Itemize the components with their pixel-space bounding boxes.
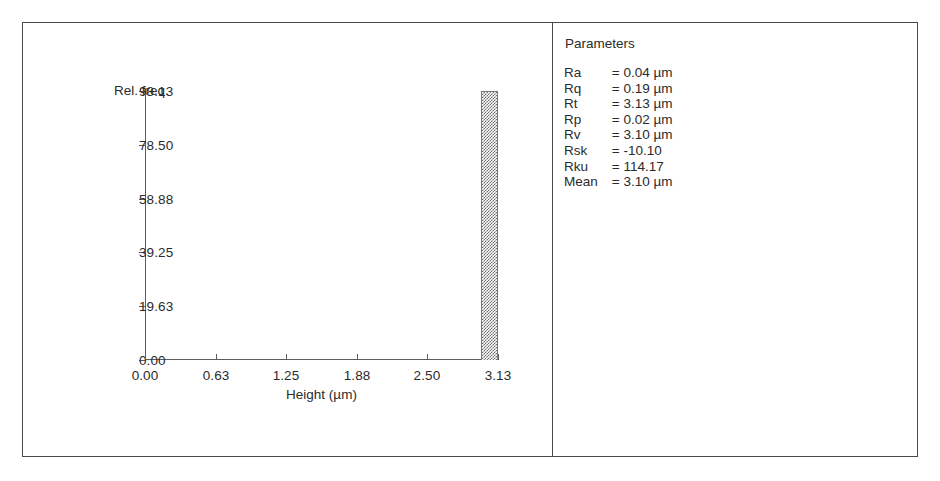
parameters-panel: Parameters Ra= 0.04 µmRq= 0.19 µmRt= 3.1… bbox=[553, 23, 918, 456]
parameter-value: = 3.10 µm bbox=[612, 127, 673, 143]
screenshot-root: Rel. freq. 0.0019.6339.2558.8878.5098.13… bbox=[0, 0, 940, 481]
parameter-row: Rv= 3.10 µm bbox=[564, 127, 672, 143]
x-tick-label: 1.25 bbox=[273, 368, 300, 383]
parameter-row: Rsk= -10.10 bbox=[564, 143, 672, 159]
parameter-unit: µm bbox=[653, 174, 672, 189]
x-tick-label: 2.50 bbox=[414, 368, 441, 383]
parameter-unit: µm bbox=[653, 96, 672, 111]
parameter-name: Rq bbox=[564, 81, 612, 97]
parameter-value: = 0.19 µm bbox=[612, 81, 673, 97]
histogram-bars bbox=[145, 91, 498, 360]
parameter-name: Rp bbox=[564, 112, 612, 128]
x-tick-label: 0.63 bbox=[203, 368, 230, 383]
histogram-chart-panel: Rel. freq. 0.0019.6339.2558.8878.5098.13… bbox=[23, 23, 552, 456]
parameter-row: Rt= 3.13 µm bbox=[564, 96, 672, 112]
parameter-value: = 0.04 µm bbox=[612, 65, 673, 81]
parameter-value: = -10.10 bbox=[612, 143, 673, 159]
parameter-name: Rt bbox=[564, 96, 612, 112]
x-tick-label: 0.00 bbox=[132, 368, 159, 383]
x-tick-label: 1.88 bbox=[344, 368, 371, 383]
x-tick-label: 3.13 bbox=[485, 368, 512, 383]
parameter-row: Mean= 3.10 µm bbox=[564, 174, 672, 190]
parameter-row: Rp= 0.02 µm bbox=[564, 112, 672, 128]
parameter-name: Rv bbox=[564, 127, 612, 143]
parameters-table: Ra= 0.04 µmRq= 0.19 µmRt= 3.13 µmRp= 0.0… bbox=[564, 65, 672, 190]
parameter-row: Rq= 0.19 µm bbox=[564, 81, 672, 97]
parameter-value: = 3.10 µm bbox=[612, 174, 673, 190]
plot-area: 0.0019.6339.2558.8878.5098.13 0.000.631.… bbox=[145, 91, 498, 360]
parameter-unit: µm bbox=[653, 127, 672, 142]
x-axis-title: Height (µm) bbox=[145, 387, 498, 402]
parameter-unit: µm bbox=[653, 65, 672, 80]
parameter-name: Rsk bbox=[564, 143, 612, 159]
parameters-title: Parameters bbox=[565, 36, 635, 51]
parameter-unit: µm bbox=[653, 112, 672, 127]
parameter-value: = 114.17 bbox=[612, 159, 673, 175]
parameter-row: Rku= 114.17 bbox=[564, 159, 672, 175]
parameter-value: = 0.02 µm bbox=[612, 112, 673, 128]
scan-margin bbox=[0, 462, 940, 481]
x-tick-mark bbox=[498, 354, 499, 360]
parameter-unit: µm bbox=[653, 81, 672, 96]
parameter-name: Mean bbox=[564, 174, 612, 190]
parameter-value: = 3.13 µm bbox=[612, 96, 673, 112]
histogram-bar bbox=[481, 91, 498, 360]
parameter-name: Rku bbox=[564, 159, 612, 175]
parameter-name: Ra bbox=[564, 65, 612, 81]
parameter-row: Ra= 0.04 µm bbox=[564, 65, 672, 81]
